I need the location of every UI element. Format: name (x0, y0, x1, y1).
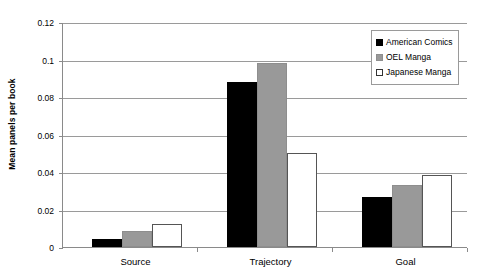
x-axis-label-goal: Goal (395, 257, 415, 267)
x-axis-label-trajectory: Trajectory (250, 257, 292, 267)
bar-source-american-comics (92, 239, 122, 247)
x-axis-tickmark (197, 248, 198, 252)
x-axis-label-source: Source (120, 257, 150, 267)
y-axis-title: Mean panels per book (0, 0, 24, 248)
bar-trajectory-oel-manga (257, 63, 287, 247)
legend-item-label: OEL Manga (386, 53, 431, 62)
legend-item-label: Japanese Manga (386, 68, 451, 77)
y-axis-tick-label: 0.02 (37, 206, 54, 215)
y-axis-tick-label: 0.1 (42, 56, 54, 65)
y-axis-tick-label: 0.04 (37, 169, 54, 178)
bar-trajectory-american-comics (227, 82, 257, 247)
bar-source-oel-manga (122, 231, 152, 247)
y-axis-tick-label: 0.12 (37, 19, 54, 28)
y-axis-title-text: Mean panels per book (7, 78, 17, 169)
legend-item: American Comics (376, 35, 453, 50)
x-axis-tickmark (332, 248, 333, 252)
bar-goal-american-comics (362, 197, 392, 247)
bar-goal-japanese-manga (422, 175, 452, 247)
bar-goal-oel-manga (392, 185, 422, 247)
legend-item-label: American Comics (386, 38, 453, 47)
filled-gray-square-icon (376, 54, 383, 61)
y-axis-tick-labels: 00.020.040.060.080.10.12 (24, 0, 58, 280)
y-axis-tick-label: 0.06 (37, 131, 54, 140)
legend: American ComicsOEL MangaJapanese Manga (371, 30, 459, 85)
y-axis-tick-label: 0 (49, 244, 54, 253)
outlined-white-square-icon (376, 69, 383, 76)
legend-item: OEL Manga (376, 50, 453, 65)
legend-item: Japanese Manga (376, 65, 453, 80)
filled-black-square-icon (376, 39, 383, 46)
y-axis-tickmark (59, 248, 63, 249)
x-axis-category-labels: SourceTrajectoryGoal (62, 252, 467, 272)
bar-chart: Mean panels per book 00.020.040.060.080.… (0, 0, 479, 280)
bar-trajectory-japanese-manga (287, 153, 317, 247)
x-axis-tickmark (467, 248, 468, 252)
bar-source-japanese-manga (152, 224, 182, 247)
y-axis-tick-label: 0.08 (37, 94, 54, 103)
